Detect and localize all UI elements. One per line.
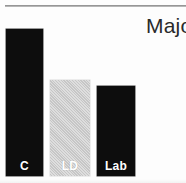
bar-ld: LD xyxy=(50,80,90,176)
scan-bottom-edge xyxy=(0,179,186,183)
bar-c: C xyxy=(6,29,43,176)
bar-label-lab: Lab xyxy=(97,160,135,173)
bar-label-ld: LD xyxy=(50,160,90,173)
figure-panel: Major C LD Lab xyxy=(0,0,186,183)
bar-lab: Lab xyxy=(97,86,135,176)
bar-label-c: C xyxy=(6,160,43,173)
bar-chart-plot-area: C LD Lab xyxy=(0,0,186,183)
